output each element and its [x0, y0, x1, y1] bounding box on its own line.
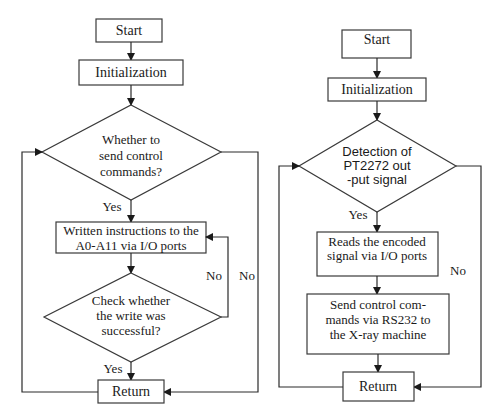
- right-decision-yes-label: Yes: [349, 207, 368, 222]
- right-decision-line3: -put signal: [347, 172, 407, 187]
- left-decision2-line3: successful?: [101, 323, 160, 338]
- right-process2-line3: the X-ray machine: [330, 327, 427, 342]
- left-process-line2: A0-A11 via I/O ports: [75, 238, 186, 253]
- right-start-label: Start: [364, 32, 391, 47]
- left-decision1-no-label: No: [239, 268, 255, 283]
- right-process2-line1: Send control com-: [330, 297, 426, 312]
- right-decision-line1: Detection of: [342, 144, 412, 159]
- left-decision2-line1: Check whether: [92, 293, 171, 308]
- left-decision2-yes-label: Yes: [104, 361, 123, 376]
- right-init-label: Initialization: [341, 82, 413, 97]
- left-init-label: Initialization: [95, 65, 167, 80]
- left-decision1-yes-label: Yes: [103, 199, 122, 214]
- left-loop-return-to-decision1: [22, 152, 98, 392]
- right-process1-line1: Reads the encoded: [328, 234, 426, 249]
- left-decision2-no-label: No: [206, 268, 222, 283]
- right-process1-line2: signal via I/O ports: [327, 248, 427, 263]
- left-decision1-line1: Whether to: [102, 132, 160, 147]
- right-flowchart: Start Initialization Detection of PT2272…: [279, 30, 481, 401]
- left-decision1-line3: commands?: [100, 164, 162, 179]
- right-decision-line2: PT2272 out: [343, 158, 411, 173]
- left-decision1-line2: send control: [99, 148, 163, 163]
- left-process-line1: Written instructions to the: [63, 223, 199, 238]
- left-return-label: Return: [112, 384, 150, 399]
- left-start-label: Start: [116, 23, 143, 38]
- right-process2-line2: mands via RS232 to: [325, 312, 430, 327]
- right-return-label: Return: [359, 379, 397, 394]
- right-decision-no-label: No: [450, 263, 466, 278]
- left-decision2-line2: the write was: [96, 308, 165, 323]
- flowchart-canvas: Start Initialization Whether to send con…: [0, 0, 501, 419]
- left-flowchart: Start Initialization Whether to send con…: [22, 19, 258, 403]
